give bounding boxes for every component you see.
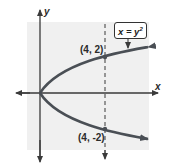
x-axis-label: x	[155, 82, 161, 92]
point-label-4-2: (4, 2)	[80, 45, 103, 55]
parabola-graph: y x (4, 2) (4, -2) x = y2	[0, 0, 169, 168]
equation-label: x = y2	[114, 22, 147, 39]
y-axis-label: y	[44, 7, 50, 17]
point-4-2	[103, 55, 107, 59]
point-4-neg2	[103, 127, 107, 131]
point-label-4-neg2: (4, -2)	[78, 133, 105, 143]
